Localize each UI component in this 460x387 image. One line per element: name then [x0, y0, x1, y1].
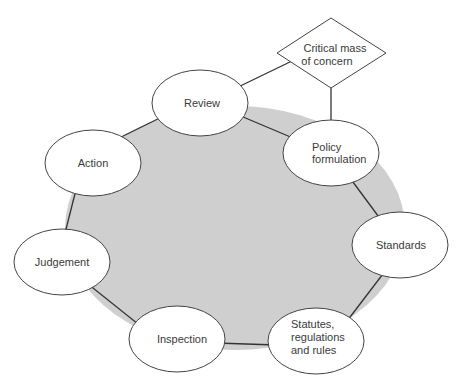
judgement-label: Judgement [35, 256, 89, 268]
node-critical-mass: Critical mass of concern [277, 18, 386, 88]
statutes-label-3: and rules [291, 344, 337, 356]
standards-label: Standards [376, 239, 427, 251]
critical-mass-line-2: of concern [301, 55, 352, 67]
review-label: Review [184, 97, 220, 109]
statutes-label-1: Statutes, [291, 318, 334, 330]
policy-label-2: formulation [312, 153, 366, 165]
policy-cycle-diagram: Critical mass of concern Review Policy f… [0, 0, 460, 387]
statutes-label-2: regulations [291, 331, 345, 343]
policy-label-1: Policy [312, 141, 342, 153]
inspection-label: Inspection [157, 333, 207, 345]
action-label: Action [78, 157, 109, 169]
critical-mass-line-1: Critical mass [304, 42, 367, 54]
